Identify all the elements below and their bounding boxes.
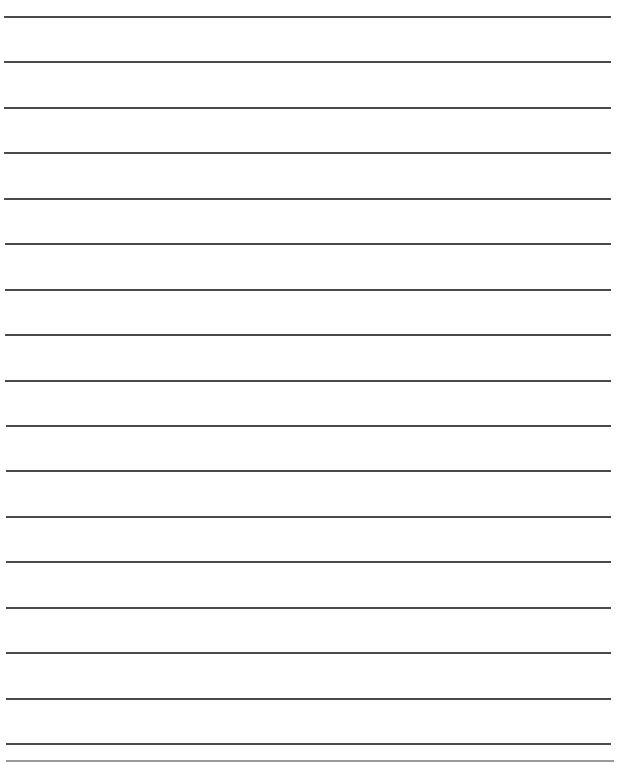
ruled-line — [6, 425, 611, 427]
ruled-line — [4, 16, 611, 18]
ruled-line — [5, 243, 611, 245]
ruled-line — [5, 289, 611, 291]
ruled-line — [4, 107, 611, 109]
ruled-line — [6, 743, 611, 745]
ruled-line — [6, 607, 611, 609]
ruled-line — [5, 334, 611, 336]
ruled-line — [4, 198, 611, 200]
ruled-line — [6, 516, 611, 518]
ruled-line — [4, 152, 611, 154]
ruled-line — [6, 652, 611, 654]
ruled-line — [4, 61, 611, 63]
ruled-line — [6, 470, 611, 472]
ruled-line — [6, 561, 611, 563]
lined-paper-page — [0, 0, 626, 763]
ruled-line — [5, 380, 611, 382]
ruled-line — [6, 698, 611, 700]
bottom-border-line — [6, 760, 614, 762]
